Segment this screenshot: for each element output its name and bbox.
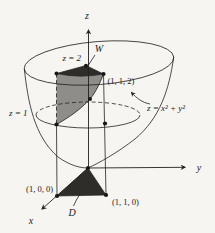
point-1-0-0-label: (1, 0, 0) [26,184,53,194]
dot-1-0-0 [55,194,59,198]
paraboloid-figure: z y x z = 2 z = 1 W D z = x² + y² (1, 1,… [0,0,215,233]
dot-z1-front [103,121,107,125]
x-axis-label: x [28,215,34,226]
dot-1-1-2 [101,72,105,76]
dot-1-0-2 [55,72,59,76]
y-axis-label: y [196,162,202,173]
z-axis-label: z [84,10,89,21]
dot-0-0-2 [84,64,88,68]
dot-1-0-1 [54,122,58,126]
dot-1-1-0 [104,193,108,197]
edge-over-1-0-visible [57,125,58,197]
figure-background [0,0,215,233]
plane-z2-label: z = 2 [61,53,81,63]
point-1-1-0-label: (1, 1, 0) [112,197,139,207]
dot-origin [86,166,90,170]
region-d-label: D [67,207,76,218]
surface-equation-label: z = x² + y² [146,103,185,113]
plane-z1-label: z = 1 [8,108,28,118]
dot-on-face-curve [88,97,92,101]
point-1-1-2-label: (1, 1, 2) [108,76,135,86]
